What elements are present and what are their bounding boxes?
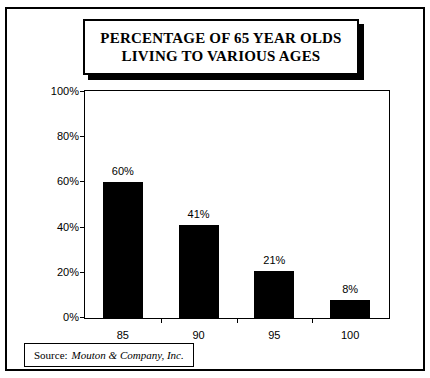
source-organization: Mouton & Company, Inc.: [72, 349, 184, 361]
x-axis-tick-mark: [312, 318, 313, 323]
x-axis-tick-label: 90: [169, 329, 229, 341]
x-axis-tick-label: 85: [93, 329, 153, 341]
plot-area: 0%20%40%60%80%100%60%8541%9021%958%100: [85, 91, 389, 318]
y-axis-tick-mark: [80, 91, 85, 92]
y-axis-tick-mark: [80, 272, 85, 273]
bar: [179, 225, 219, 318]
bar: [103, 182, 143, 318]
chart-title: PERCENTAGE OF 65 YEAR OLDS LIVING TO VAR…: [100, 29, 341, 65]
x-axis-tick-label: 95: [244, 329, 304, 341]
x-axis-tick-mark: [237, 318, 238, 323]
x-axis-tick-label: 100: [320, 329, 380, 341]
bar-value-label: 60%: [93, 165, 153, 177]
y-axis-tick-label: 20%: [39, 266, 79, 278]
y-axis-tick-mark: [80, 181, 85, 182]
y-axis-tick-mark: [80, 227, 85, 228]
y-axis-tick-label: 40%: [39, 221, 79, 233]
bar-value-label: 41%: [169, 208, 229, 220]
y-axis-tick-mark: [80, 136, 85, 137]
plot-frame: 0%20%40%60%80%100%60%8541%9021%958%100: [84, 90, 390, 319]
bar-value-label: 21%: [244, 254, 304, 266]
y-axis-tick-label: 0%: [39, 311, 79, 323]
bar: [254, 271, 294, 318]
chart-title-box: PERCENTAGE OF 65 YEAR OLDS LIVING TO VAR…: [83, 19, 359, 75]
bar: [330, 300, 370, 318]
source-label: Source:: [34, 349, 68, 361]
chart-figure: PERCENTAGE OF 65 YEAR OLDS LIVING TO VAR…: [5, 7, 425, 371]
bar-value-label: 8%: [320, 283, 380, 295]
source-note-box: Source: Mouton & Company, Inc.: [24, 343, 194, 367]
y-axis-tick-label: 100%: [39, 85, 79, 97]
x-axis-tick-mark: [161, 318, 162, 323]
y-axis-tick-label: 80%: [39, 130, 79, 142]
y-axis-tick-label: 60%: [39, 175, 79, 187]
y-axis-tick-mark: [80, 317, 85, 318]
